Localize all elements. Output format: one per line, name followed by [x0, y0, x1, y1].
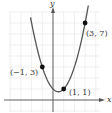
data-point [83, 21, 88, 26]
x-axis-arrow-icon [99, 98, 105, 102]
grid-lines [9, 12, 100, 112]
x-axis-label: x [107, 95, 112, 104]
y-axis-label: y [49, 0, 55, 8]
point-label-vertex: (1, 1) [69, 88, 91, 97]
data-point [40, 65, 45, 70]
data-point [61, 87, 66, 92]
parabola-chart: x y (−1, 3) (1, 1) (3, 7) [0, 0, 112, 113]
parabola-curve [31, 6, 89, 92]
point-labels: (−1, 3) (1, 1) (3, 7) [10, 29, 108, 97]
point-label-left: (−1, 3) [10, 68, 38, 77]
point-label-right: (3, 7) [86, 29, 108, 38]
